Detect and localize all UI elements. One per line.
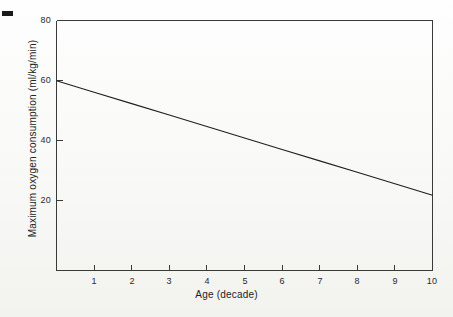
x-tick-label-2: 2 [124, 276, 140, 286]
x-axis-title: Age (decade) [0, 289, 453, 300]
x-tick-label-7: 7 [312, 276, 328, 286]
x-tick-label-8: 8 [349, 276, 365, 286]
x-tick-label-4: 4 [199, 276, 215, 286]
axis-frame [57, 21, 433, 271]
x-tick-label-1: 1 [86, 276, 102, 286]
x-tick-label-6: 6 [274, 276, 290, 286]
figure-container: 80 60 40 20 1 2 3 4 5 6 7 8 9 10 Age (de… [0, 0, 453, 317]
x-tick-label-10: 10 [424, 276, 440, 286]
y-tick-marks [57, 21, 63, 201]
x-tick-label-5: 5 [237, 276, 253, 286]
x-tick-label-9: 9 [387, 276, 403, 286]
x-tick-marks [94, 265, 432, 271]
y-axis-title: Maximum oxygen consumption (ml/kg/min) [27, 24, 38, 254]
data-series-line [57, 81, 433, 195]
x-tick-label-3: 3 [161, 276, 177, 286]
chart-plot-area [0, 0, 453, 317]
